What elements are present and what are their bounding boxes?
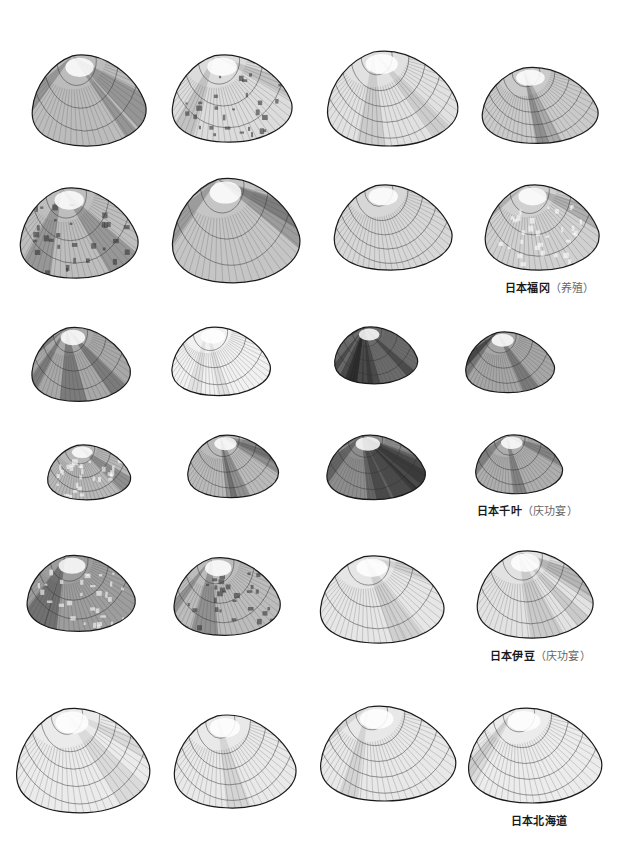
clam-shell-illustration	[18, 185, 140, 280]
clam-shell-illustration	[186, 433, 280, 499]
clam-shell-illustration	[318, 553, 446, 645]
caption-chiba: 日本千叶（庆功宴）	[477, 502, 578, 518]
clam-shell-illustration	[172, 712, 298, 810]
caption-izu: 日本伊豆（庆功宴）	[490, 647, 591, 663]
clam-shell-illustration	[25, 553, 137, 633]
clam-shell-illustration	[332, 182, 454, 272]
caption-note: （庆功宴）	[535, 650, 591, 663]
clam-shell-illustration	[14, 705, 152, 815]
clam-shell-illustration	[464, 330, 556, 394]
clam-shell-illustration	[46, 443, 132, 501]
caption-region: 日本千叶	[477, 505, 522, 518]
clam-shell-illustration	[475, 548, 595, 640]
clam-shell-illustration	[318, 703, 458, 803]
clam-shell-illustration	[466, 705, 604, 805]
clam-shell-illustration	[483, 182, 601, 272]
caption-region: 日本福冈	[505, 282, 550, 295]
clam-shell-illustration	[30, 325, 132, 403]
clam-shell-illustration	[325, 48, 460, 148]
clam-shell-illustration	[172, 555, 282, 637]
caption-fukuoka: 日本福冈（养殖）	[505, 279, 595, 295]
caption-region: 日本北海道	[511, 815, 567, 828]
caption-hokkaido: 日本北海道	[511, 812, 567, 828]
clam-shell-illustration	[30, 52, 148, 148]
clam-shell-illustration	[170, 52, 294, 144]
clam-shell-illustration	[474, 433, 564, 495]
caption-note: （庆功宴）	[522, 505, 578, 518]
caption-note: （养殖）	[550, 282, 595, 295]
caption-region: 日本伊豆	[490, 650, 535, 663]
clam-shell-illustration	[333, 325, 419, 385]
clam-shell-illustration	[170, 175, 302, 285]
clam-shell-illustration	[325, 433, 427, 501]
clam-shell-illustration	[170, 325, 272, 397]
clam-shell-illustration	[480, 65, 600, 145]
